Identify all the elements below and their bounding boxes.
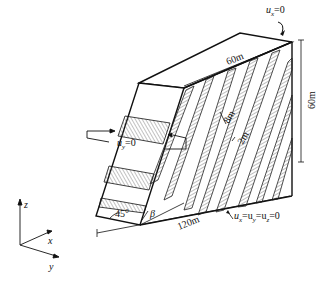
bottom-bc-label: ux=uy=uz=0 xyxy=(234,211,280,224)
y-axis-label: y xyxy=(49,262,53,272)
top-bc-arrow xyxy=(278,22,283,33)
z-axis-label: z xyxy=(24,200,28,210)
x-axis-label: x xyxy=(48,236,52,246)
left-bc-arrow xyxy=(87,129,115,142)
left-bc-label: uy=0 xyxy=(117,138,136,151)
right-dimension xyxy=(298,40,304,162)
slope-angle-label: 45° xyxy=(115,209,129,219)
top-bc-label: ux=0 xyxy=(266,5,285,18)
slope-diagram: ux=0 60m 60m uy=0 8m 2m 45° β 120m ux=uy… xyxy=(0,0,328,284)
right-height-label: 60m xyxy=(307,91,317,109)
joint-angle-label: β xyxy=(150,209,155,219)
